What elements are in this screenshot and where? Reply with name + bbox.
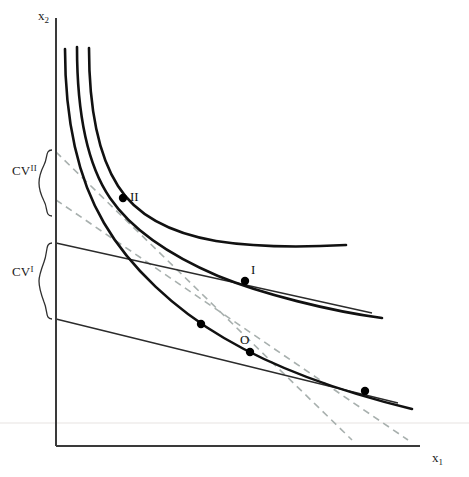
indifference-curve-middle xyxy=(77,47,382,318)
indifference-curve-figure: x2 x1 II I O CVII CVI xyxy=(0,0,469,477)
point-II xyxy=(119,194,127,202)
brace-cv-two xyxy=(39,150,52,216)
x-axis-label: x1 xyxy=(432,450,443,466)
point-I xyxy=(241,277,249,285)
figure-canvas xyxy=(0,0,469,477)
point-unlabeled-left xyxy=(197,320,205,328)
budget-line-upper xyxy=(56,243,372,313)
cv-two-label-text: CV xyxy=(12,163,30,178)
cv-two-label-superscript: II xyxy=(30,163,36,173)
indifference-curves-group xyxy=(65,47,412,409)
cv-one-label: CVI xyxy=(12,264,34,280)
y-axis-label-subscript: 2 xyxy=(45,15,50,25)
y-axis-label: x2 xyxy=(38,8,49,24)
indifference-curve-upper xyxy=(89,48,346,246)
point-label-II: II xyxy=(130,189,139,205)
dashed-line-upper xyxy=(56,152,352,440)
point-unlabeled-right xyxy=(361,387,369,395)
cv-one-label-text: CV xyxy=(12,264,30,279)
x-axis-label-text: x xyxy=(432,450,439,465)
point-O xyxy=(246,348,254,356)
cv-one-label-superscript: I xyxy=(30,264,33,274)
point-label-I: I xyxy=(251,262,255,278)
budget-lines-group xyxy=(56,243,398,403)
brace-cv-one xyxy=(39,243,52,319)
dashed-line-lower xyxy=(56,200,408,440)
indifference-curve-lower xyxy=(65,49,412,409)
x-axis-label-subscript: 1 xyxy=(439,457,444,467)
y-axis-label-text: x xyxy=(38,8,45,23)
point-label-O: O xyxy=(240,332,249,348)
cv-two-label: CVII xyxy=(12,163,37,179)
